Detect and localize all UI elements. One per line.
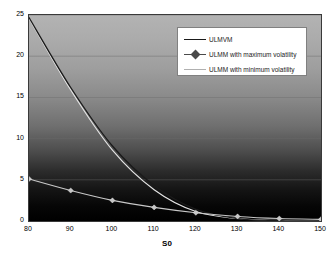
x-tick-label: 110 (141, 225, 165, 233)
legend-line-icon (184, 69, 206, 70)
legend-swatch-icon (184, 49, 206, 60)
data-point-marker (68, 188, 73, 193)
x-tick-label: 100 (99, 225, 123, 233)
y-tick-label: 15 (2, 92, 24, 100)
x-tick-label: 130 (225, 225, 249, 233)
data-point-marker (29, 176, 32, 181)
chart-legend: ULMVMULMM with maximum volatilityULMM wi… (177, 27, 307, 76)
y-tick-label: 25 (2, 10, 24, 18)
legend-label: ULMM with maximum volatility (209, 51, 296, 59)
legend-label: ULMVM (209, 36, 232, 44)
legend-diamond-marker-icon (191, 50, 201, 60)
x-axis-title: S0 (0, 239, 334, 248)
legend-label: ULMM with minimum volatility (209, 66, 295, 74)
y-tick-label: 5 (2, 175, 24, 183)
y-axis-tick-labels: 0510152025 (0, 0, 24, 236)
y-tick-label: 10 (2, 134, 24, 142)
x-tick-label: 150 (308, 225, 332, 233)
legend-item[interactable]: ULMM with maximum volatility (178, 47, 306, 62)
y-tick-label: 20 (2, 51, 24, 59)
x-tick-label: 120 (183, 225, 207, 233)
legend-swatch-icon (184, 64, 206, 75)
legend-item[interactable]: ULMVM (178, 32, 306, 47)
legend-line-icon (184, 39, 206, 40)
x-tick-label: 90 (58, 225, 82, 233)
x-tick-label: 140 (266, 225, 290, 233)
y-tick-label: 0 (2, 216, 24, 224)
legend-item[interactable]: ULMM with minimum volatility (178, 62, 306, 77)
x-tick-label: 80 (16, 225, 40, 233)
data-point-marker (110, 198, 115, 203)
data-point-marker (152, 205, 157, 210)
chart-figure: 0510152025 8090100110120130140150 S0 ULM… (0, 0, 334, 259)
legend-swatch-icon (184, 34, 206, 45)
x-axis-tick-labels: 8090100110120130140150 (0, 225, 334, 237)
